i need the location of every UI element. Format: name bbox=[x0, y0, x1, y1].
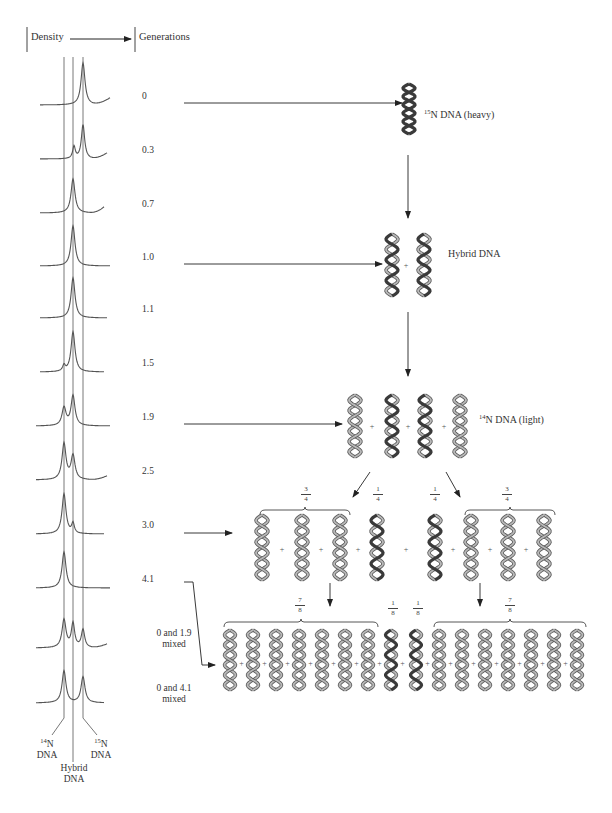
light-dna-helix bbox=[465, 515, 477, 580]
light-dna-helix bbox=[480, 630, 491, 690]
heavy-dna-helix bbox=[403, 84, 415, 134]
plus-sign: + bbox=[404, 545, 409, 554]
light-dna-helix bbox=[549, 630, 560, 690]
density-profile-curve bbox=[40, 179, 104, 213]
plus-sign: + bbox=[488, 545, 493, 554]
gen41-arrow bbox=[184, 582, 215, 665]
gen2-to-gen3-right-arrow bbox=[446, 472, 460, 497]
plus-sign: + bbox=[400, 659, 405, 668]
hybrid-dna-helix bbox=[429, 515, 441, 580]
light-dna-helix bbox=[503, 630, 514, 690]
hybrid-dna-helix bbox=[419, 395, 431, 457]
light-dna-helix bbox=[271, 630, 282, 690]
density-profile-curve bbox=[36, 442, 107, 479]
plus-sign: + bbox=[404, 261, 409, 270]
density-profile-curve bbox=[36, 671, 104, 703]
density-profile-curve bbox=[40, 125, 107, 159]
plus-sign: + bbox=[406, 422, 411, 431]
plus-sign: + bbox=[425, 659, 430, 668]
density-profile-curve bbox=[40, 332, 104, 372]
light-dna-helix bbox=[317, 630, 328, 690]
light-dna-helix bbox=[457, 630, 468, 690]
light-dna-helix bbox=[349, 395, 361, 457]
gen2-to-gen3-left-arrow bbox=[353, 472, 370, 497]
gen3-right-brace bbox=[465, 507, 555, 515]
light-dna-helix bbox=[502, 515, 514, 580]
plus-sign: + bbox=[524, 545, 529, 554]
hybrid-dna-helix bbox=[371, 515, 383, 580]
light-dna-helix bbox=[256, 515, 268, 580]
light-dna-helix bbox=[454, 395, 466, 457]
plus-sign: + bbox=[285, 659, 290, 668]
density-profile-curve bbox=[40, 63, 110, 105]
plus-sign: + bbox=[471, 659, 476, 668]
n15-leader bbox=[83, 712, 97, 735]
plus-sign: + bbox=[319, 545, 324, 554]
plus-sign: + bbox=[540, 659, 545, 668]
gen4-right-brace bbox=[434, 619, 586, 627]
light-dna-helix bbox=[363, 630, 374, 690]
plus-sign: + bbox=[331, 659, 336, 668]
gen4-left-brace bbox=[224, 619, 378, 627]
plus-sign: + bbox=[308, 659, 313, 668]
hybrid-dna-helix bbox=[386, 234, 398, 296]
light-dna-helix bbox=[340, 630, 351, 690]
hybrid-dna-helix bbox=[386, 395, 398, 457]
plus-sign: + bbox=[563, 659, 568, 668]
plus-sign: + bbox=[280, 545, 285, 554]
plus-sign: + bbox=[442, 422, 447, 431]
density-profile-curve bbox=[40, 278, 107, 318]
hybrid-dna-helix bbox=[418, 234, 430, 296]
plus-sign: + bbox=[517, 659, 522, 668]
plus-sign: + bbox=[377, 659, 382, 668]
gen3-left-brace bbox=[260, 507, 350, 515]
plus-sign: + bbox=[448, 659, 453, 668]
density-profile-curve bbox=[40, 226, 110, 266]
light-dna-helix bbox=[572, 630, 583, 690]
light-dna-helix bbox=[538, 515, 550, 580]
plus-sign: + bbox=[354, 659, 359, 668]
diagram-canvas: ++++++++++++++++++++++++++ bbox=[0, 0, 612, 813]
plus-sign: + bbox=[451, 545, 456, 554]
light-dna-helix bbox=[296, 515, 308, 580]
density-profile-curve bbox=[36, 619, 107, 648]
light-dna-helix bbox=[248, 630, 259, 690]
light-dna-helix bbox=[225, 630, 236, 690]
light-dna-helix bbox=[434, 630, 445, 690]
plus-sign: + bbox=[356, 545, 361, 554]
meselson-stahl-figure: Density Generations 00.30.71.01.11.51.92… bbox=[0, 0, 612, 813]
light-dna-helix bbox=[334, 515, 346, 580]
n14-leader bbox=[52, 712, 64, 735]
light-dna-helix bbox=[526, 630, 537, 690]
hybrid-dna-helix bbox=[386, 630, 397, 690]
plus-sign: + bbox=[494, 659, 499, 668]
plus-sign: + bbox=[262, 659, 267, 668]
light-dna-helix bbox=[294, 630, 305, 690]
plus-sign: + bbox=[370, 422, 375, 431]
plus-sign: + bbox=[239, 659, 244, 668]
density-profile-curve bbox=[36, 494, 104, 534]
hybrid-dna-helix bbox=[411, 630, 422, 690]
